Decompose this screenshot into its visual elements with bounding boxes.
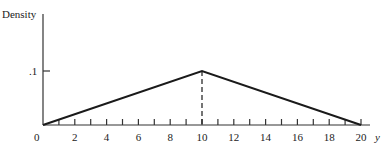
y-axis-label: Density bbox=[2, 8, 37, 20]
x-tick-label: 16 bbox=[292, 131, 304, 143]
x-tick-label: 2 bbox=[72, 131, 78, 143]
x-tick-label: 8 bbox=[167, 131, 173, 143]
density-chart: 02468101214161820 Density y .1 bbox=[0, 0, 384, 146]
x-tick-label: 14 bbox=[260, 131, 272, 143]
y-tick-label: .1 bbox=[29, 65, 37, 77]
x-axis-label: y bbox=[374, 131, 380, 143]
x-tick-label: 6 bbox=[136, 131, 142, 143]
x-tick-label: 20 bbox=[356, 131, 368, 143]
x-tick-label: 0 bbox=[34, 131, 40, 143]
x-tick-label: 4 bbox=[104, 131, 110, 143]
x-tick-label: 18 bbox=[324, 131, 336, 143]
x-ticks bbox=[59, 119, 361, 125]
x-tick-label: 12 bbox=[228, 131, 239, 143]
x-tick-label: 10 bbox=[197, 131, 209, 143]
x-tick-labels: 02468101214161820 bbox=[34, 131, 367, 143]
